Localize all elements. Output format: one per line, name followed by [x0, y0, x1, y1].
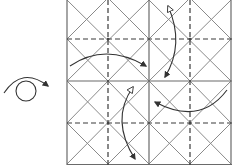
crease-pattern-diagram [0, 0, 232, 168]
turn-over-arrow-icon [4, 77, 48, 93]
fold-arrow-top-right [165, 6, 176, 77]
turn-over-symbol [4, 77, 48, 101]
turn-over-circle [16, 81, 36, 101]
